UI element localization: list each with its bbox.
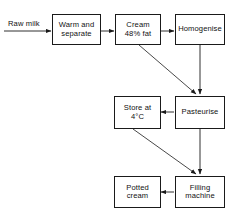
- node-cream-48-fat[interactable]: Cream 48% fat: [115, 14, 161, 45]
- edge-store-to-filling-machine: [133, 129, 196, 174]
- node-store-at-4c[interactable]: Store at 4°C: [114, 96, 161, 129]
- input-label-raw-milk: Raw milk: [8, 19, 40, 28]
- node-pasteurise-label: Pasteurise: [180, 108, 221, 117]
- node-warm-and-separate-label: Warm and separate: [57, 21, 97, 38]
- node-cream-48-fat-label: Cream 48% fat: [123, 21, 153, 38]
- node-store-at-4c-label: Store at 4°C: [122, 104, 153, 121]
- node-potted-cream[interactable]: Potted cream: [114, 176, 161, 208]
- node-filling-machine-label: Filling machine: [183, 184, 216, 201]
- flowchart-diagram: Raw milk Warm and separate Cream 48% fat…: [0, 0, 229, 218]
- node-potted-cream-label: Potted cream: [124, 184, 151, 201]
- edge-cream-to-pasteurise: [139, 45, 196, 94]
- node-homogenise-label: Homogenise: [176, 25, 224, 34]
- node-homogenise[interactable]: Homogenise: [175, 14, 225, 45]
- node-filling-machine[interactable]: Filling machine: [175, 176, 225, 208]
- node-warm-and-separate[interactable]: Warm and separate: [52, 14, 101, 45]
- node-pasteurise[interactable]: Pasteurise: [175, 96, 225, 129]
